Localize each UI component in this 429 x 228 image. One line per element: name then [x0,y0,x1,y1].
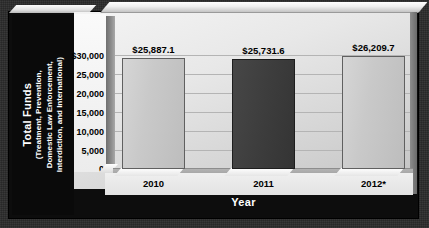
y-axis-tick-column: $30,000 25,000 20,000 15,000 10,000 5,00… [74,14,106,172]
y-tick-label: 5,000 [81,146,104,156]
bar-base-pad [334,168,404,176]
x-tick-label-2010: 2010 [122,178,185,189]
y-axis-subtitle-line-2: Domestic Law Enforcement, [45,57,55,172]
y-tick-label: 20,000 [76,89,104,99]
y-tick-label: 15,000 [76,108,104,118]
x-tick-label-2011: 2011 [232,178,295,189]
chart-screenshot: Total Funds (Treatment, Prevention, Dome… [0,0,429,228]
bar-base-pad [224,168,294,176]
x-axis-title: Year [74,196,413,208]
x-tick-label-2012: 2012* [342,178,405,189]
y-axis-title: Total Funds [21,57,33,172]
y-axis-subtitle-line-1: (Treatment, Prevention, [34,57,44,172]
y-axis-subtitle-line-3: Interdiction, and International) [55,57,65,172]
bar-2011[interactable] [232,59,295,169]
y-tick-label: 25,000 [76,70,104,80]
bar-2010[interactable] [122,58,185,169]
y-axis-title-panel: Total Funds (Treatment, Prevention, Dome… [12,15,74,215]
wall-right-edge [410,12,417,194]
y-tick-label: $30,000 [71,51,104,61]
plot-left-sidewall [106,16,115,168]
y-tick-label: 10,000 [76,127,104,137]
bar-value-label-2010: $25,887.1 [122,44,185,55]
bar-value-label-2012: $26,209.7 [342,42,405,53]
bar-base-pad [114,168,184,176]
bar-value-label-2011: $25,731.6 [232,45,295,56]
wall-top-bevel [101,2,427,12]
bar-2012[interactable] [342,56,405,169]
